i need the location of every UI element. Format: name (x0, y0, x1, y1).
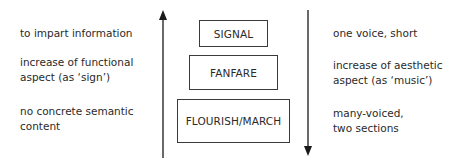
right-label-line: one voice, short (333, 26, 417, 41)
box-label: FANFARE (210, 67, 257, 79)
up-arrow-icon (159, 10, 167, 158)
box-label: FLOURISH/MARCH (186, 115, 282, 127)
right-label-line: aspect (as ‘music’) (333, 73, 442, 88)
right-label-line: two sections (333, 121, 404, 136)
box-fanfare: FANFARE (189, 55, 278, 90)
right-label-line: many-voiced, (333, 106, 404, 121)
left-label-line: to impart information (20, 26, 133, 41)
right-label-sections: many-voiced, two sections (333, 106, 404, 136)
right-label-voice: one voice, short (333, 26, 417, 41)
box-flourish-march: FLOURISH/MARCH (177, 99, 290, 143)
down-arrow-icon (304, 10, 312, 156)
right-label-aesthetic: increase of aesthetic aspect (as ‘music’… (333, 58, 442, 88)
diagram-canvas: to impart information increase of functi… (0, 0, 455, 160)
left-label-line: no concrete semantic (20, 104, 134, 119)
left-label-line: increase of functional (20, 55, 133, 70)
right-label-line: increase of aesthetic (333, 58, 442, 73)
left-label-line: aspect (as ‘sign’) (20, 70, 133, 85)
left-label-functional: increase of functional aspect (as ‘sign’… (20, 55, 133, 85)
box-label: SIGNAL (214, 28, 253, 40)
box-signal: SIGNAL (199, 20, 268, 47)
left-label-purpose: to impart information (20, 26, 133, 41)
left-label-line: content (20, 119, 134, 134)
left-label-semantic: no concrete semantic content (20, 104, 134, 134)
